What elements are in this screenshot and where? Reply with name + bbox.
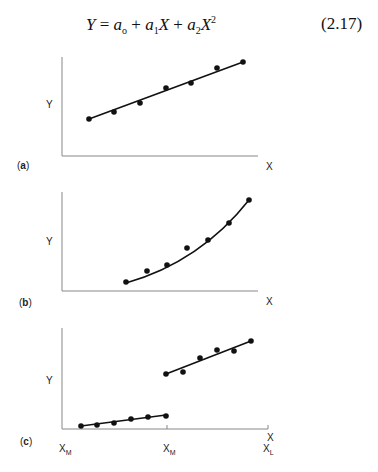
panel-a-points bbox=[86, 59, 246, 122]
panel-b-label: (b) bbox=[19, 297, 32, 308]
panel-b-y-label: Y bbox=[46, 236, 53, 247]
panel-a-x-label: X bbox=[266, 161, 273, 172]
panel-c-tick-label-2: XM bbox=[163, 443, 176, 456]
panel-a: Y X (a) bbox=[17, 57, 273, 172]
panel-c-label: (c) bbox=[20, 436, 32, 447]
panel-c-x-label: X bbox=[267, 432, 274, 443]
panel-b-axes bbox=[62, 192, 258, 291]
panel-b-points bbox=[123, 197, 252, 285]
panel-c-tick-label-3: XL bbox=[263, 443, 274, 456]
panel-c-fit-lower bbox=[81, 415, 166, 426]
panel-b-x-label: X bbox=[266, 296, 273, 307]
panel-c-fit-upper bbox=[166, 341, 251, 374]
panel-c-tick-label-1: XM bbox=[59, 443, 72, 456]
panel-b: Y X (b) bbox=[19, 192, 273, 308]
panel-a-y-label: Y bbox=[46, 99, 53, 110]
panel-a-axes bbox=[62, 57, 258, 156]
panel-a-label: (a) bbox=[17, 160, 29, 171]
panel-c-y-label: Y bbox=[46, 375, 53, 386]
panel-c: Y X XM XM XL (c) bbox=[20, 328, 274, 456]
figure: Y X (a) Y X (b) Y X bbox=[0, 0, 378, 472]
